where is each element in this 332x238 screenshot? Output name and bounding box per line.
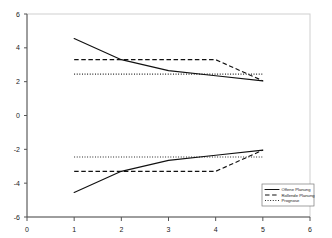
chart-container: 6 4 2 0 -2 -4 -6 0 1 2 3 4 5 6 xyxy=(0,0,332,238)
x-axis-label-2: 2 xyxy=(119,226,123,233)
y-axis-label-minus6: -6 xyxy=(14,214,20,221)
legend-label-prognose: Prognose xyxy=(282,198,301,203)
x-axis-label-4: 4 xyxy=(214,226,218,233)
x-axis-label-5: 5 xyxy=(261,226,265,233)
x-axis-label-6: 6 xyxy=(308,226,312,233)
x-axis-ticks xyxy=(27,217,310,221)
y-axis-label-2: 2 xyxy=(16,78,20,85)
line-chart: 6 4 2 0 -2 -4 -6 0 1 2 3 4 5 6 xyxy=(0,0,332,238)
y-axis-label-minus4: -4 xyxy=(14,180,20,187)
x-axis-label-3: 3 xyxy=(167,226,171,233)
legend-label-rollende-planung: Rollende Planung xyxy=(282,193,316,198)
x-axis-label-0: 0 xyxy=(25,226,29,233)
y-axis-label-0: 0 xyxy=(16,112,20,119)
y-axis-label-minus2: -2 xyxy=(14,146,20,153)
x-axis-label-1: 1 xyxy=(72,226,76,233)
legend-label-offene-planung: Offene Planung xyxy=(282,187,312,192)
chart-legend: Offene Planung Rollende Planung Prognose xyxy=(262,184,315,206)
y-axis-label-6: 6 xyxy=(16,11,20,18)
series-paths xyxy=(74,39,263,193)
y-axis-label-4: 4 xyxy=(16,44,20,51)
